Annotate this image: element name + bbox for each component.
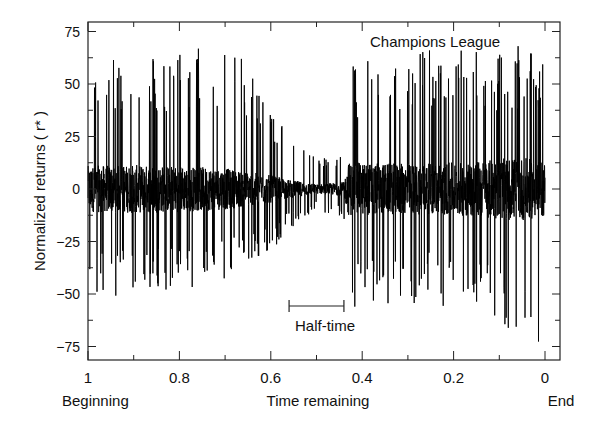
y-tick-label: −25 (56, 234, 80, 250)
halftime-bracket: Half-time (289, 300, 355, 334)
x-axis-label: Time remaining (267, 392, 370, 409)
x-tick-label: 1 (84, 369, 92, 386)
returns-chart: 7550250−25−50−75 10.80.60.40.20 Normaliz… (0, 0, 599, 425)
y-tick-label: −50 (56, 286, 80, 302)
x-tick-label: 0.8 (169, 369, 190, 386)
y-tick-label: 25 (64, 129, 80, 145)
x-start-label: Beginning (62, 392, 129, 409)
y-axis-label: Normalized returns ( r* ) (31, 111, 48, 271)
returns-series-line (88, 46, 545, 341)
x-tick-label: 0.4 (352, 369, 373, 386)
x-end-label: End (548, 392, 575, 409)
y-tick-label: 0 (72, 181, 80, 197)
y-tick-label: 50 (64, 76, 80, 92)
plot-area (88, 46, 545, 341)
x-tick-label: 0.2 (443, 369, 464, 386)
y-tick-label: 75 (64, 24, 80, 40)
halftime-label: Half-time (295, 317, 355, 334)
y-tick-label: −75 (56, 339, 80, 355)
chart-annotation-title: Champions League (370, 33, 500, 50)
x-tick-label: 0 (541, 369, 549, 386)
x-tick-label: 0.6 (260, 369, 281, 386)
